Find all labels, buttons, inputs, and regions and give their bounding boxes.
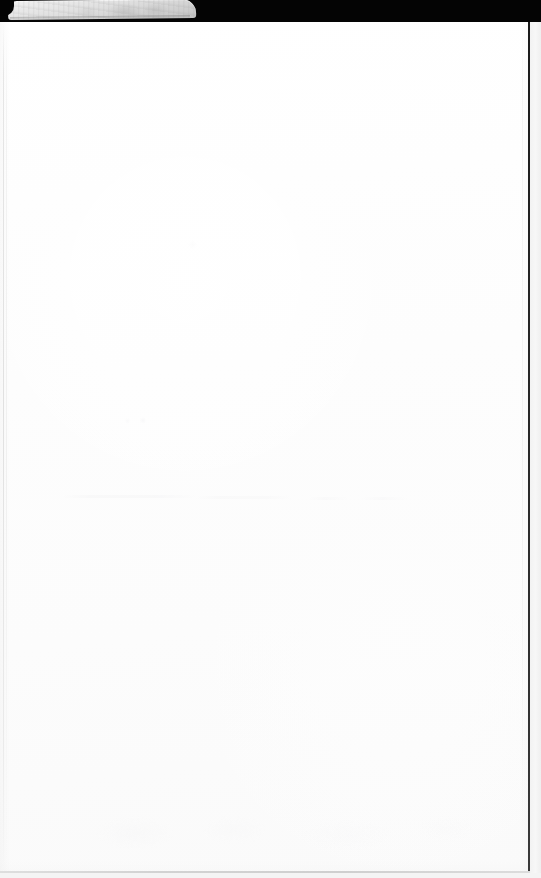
paper-sheet <box>0 21 529 873</box>
scanned-document-page <box>0 0 541 878</box>
right-outer-margin <box>530 21 541 878</box>
bottom-outer-margin <box>0 873 541 878</box>
flap-texture-overlay <box>8 0 196 20</box>
left-inner-edge-line <box>6 30 7 865</box>
envelope-flap <box>8 0 196 20</box>
right-inner-edge-line <box>522 26 523 868</box>
left-paper-edge-line <box>3 24 4 870</box>
page-text-content <box>40 81 490 821</box>
